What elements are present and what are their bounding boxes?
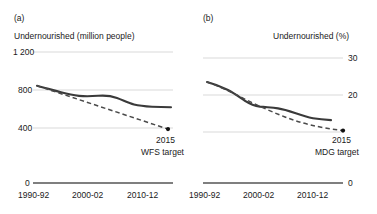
- annotation-target-a: WFS target: [141, 147, 184, 157]
- y-tick-label-30-b: 30: [348, 53, 357, 63]
- mdg-target-endpoint-marker: [341, 129, 345, 133]
- x-tick-label-2000-02-b: 2000-02: [243, 190, 274, 200]
- series-undernourishment-prevalence: [207, 82, 331, 120]
- y-tick-label-0-b: 0: [348, 178, 353, 188]
- annotation-target-b: MDG target: [315, 147, 359, 157]
- y-tick-label-0-a: 0: [25, 178, 30, 188]
- series-undernourished-count: [37, 86, 171, 108]
- y-tick-label-400-a: 400: [18, 123, 32, 133]
- x-tick-label-1990-92-a: 1990-92: [18, 190, 49, 200]
- x-tick-label-1990-92-b: 1990-92: [189, 190, 220, 200]
- figure-root: (a) Undernourished (million people) 1 20…: [0, 0, 377, 214]
- chart-panel-a: (a) Undernourished (million people) 1 20…: [0, 0, 188, 214]
- y-tick-label-800-a: 800: [18, 85, 32, 95]
- annotation-year-b: 2015: [332, 135, 351, 145]
- wfs-target-endpoint-marker: [166, 127, 170, 131]
- x-tick-label-2010-12-a: 2010-12: [127, 190, 158, 200]
- x-tick-label-2000-02-a: 2000-02: [72, 190, 103, 200]
- chart-panel-b: (b) Undernourished (%) 30 20 0 1990-92 2…: [189, 0, 377, 214]
- y-tick-label-20-b: 20: [348, 90, 357, 100]
- annotation-year-a: 2015: [156, 135, 175, 145]
- y-tick-label-1200-a: 1 200: [13, 47, 34, 57]
- x-tick-label-2010-12-b: 2010-12: [297, 190, 328, 200]
